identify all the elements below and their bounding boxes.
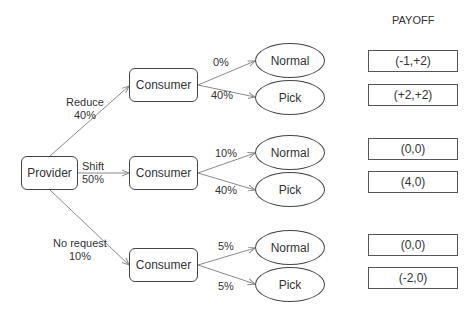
action-label: Reduce <box>60 96 110 109</box>
consumer-node-reduce: Consumer <box>129 68 198 102</box>
probability-label: 50% <box>82 173 104 186</box>
prob-shift-pick: 40% <box>215 184 237 197</box>
probability-label: 10% <box>50 250 110 263</box>
payoff-shift-normal: (0,0) <box>368 138 458 160</box>
outcome-no-request-pick: Pick <box>255 267 325 302</box>
prob-reduce-pick: 40% <box>211 89 233 102</box>
action-label: No request <box>50 237 110 250</box>
payoff-reduce-pick: (+2,+2) <box>368 84 458 106</box>
outcome-no-request-normal: Normal <box>255 230 325 265</box>
consumer-node-no-request: Consumer <box>129 248 198 282</box>
prob-no-request-pick: 5% <box>218 280 234 293</box>
outcome-shift-pick: Pick <box>255 172 325 207</box>
payoff-reduce-normal: (-1,+2) <box>368 50 458 72</box>
prob-reduce-normal: 0% <box>213 56 229 69</box>
payoff-shift-pick: (4,0) <box>368 171 458 193</box>
outcome-reduce-normal: Normal <box>255 43 325 78</box>
prob-shift-normal: 10% <box>215 147 237 160</box>
branch-no-request-label: No request 10% <box>50 237 110 263</box>
branch-shift-label: Shift 50% <box>82 160 104 186</box>
branch-reduce-label: Reduce 40% <box>60 96 110 122</box>
provider-node: Provider <box>21 156 78 190</box>
payoff-header: PAYOFF <box>392 14 434 27</box>
prob-no-request-normal: 5% <box>218 240 234 253</box>
consumer-node-shift: Consumer <box>129 156 198 190</box>
outcome-reduce-pick: Pick <box>255 80 325 115</box>
probability-label: 40% <box>60 109 110 122</box>
payoff-no-request-normal: (0,0) <box>368 234 458 256</box>
payoff-no-request-pick: (-2,0) <box>368 267 458 289</box>
action-label: Shift <box>82 160 104 173</box>
outcome-shift-normal: Normal <box>255 135 325 170</box>
